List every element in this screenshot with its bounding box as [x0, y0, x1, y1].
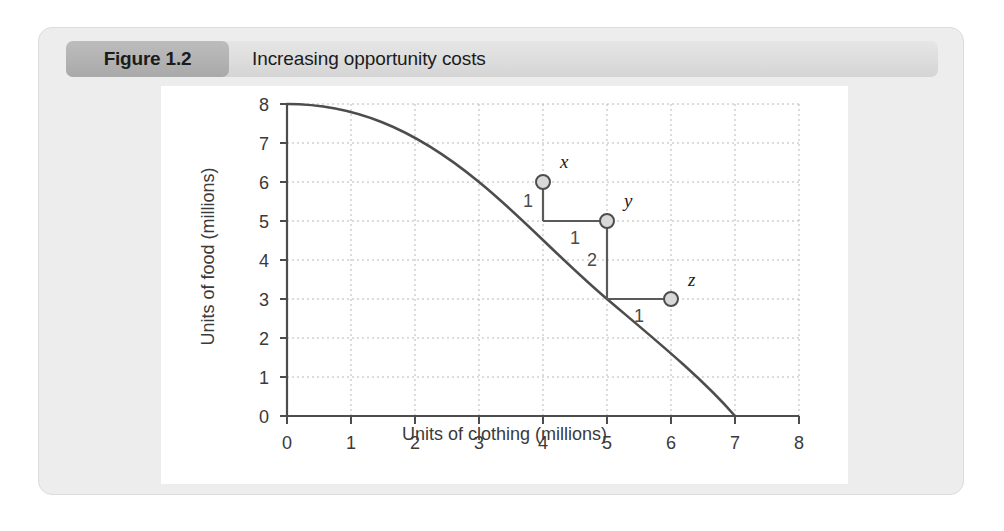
figure-screenshot: Figure 1.2 Increasing opportunity costs [0, 0, 1004, 531]
y-tick-7: 7 [259, 134, 269, 154]
plot-panel: 8 7 6 5 4 3 2 1 0 0 1 2 3 4 5 [161, 86, 848, 484]
axis-ticks [280, 104, 799, 424]
y-tick-2: 2 [259, 329, 269, 349]
y-tick-1: 1 [259, 368, 269, 388]
figure-caption: Increasing opportunity costs [252, 41, 486, 77]
data-point-x[interactable] [536, 175, 550, 189]
figure-number-label: Figure 1.2 [66, 41, 229, 77]
y-tick-8: 8 [259, 95, 269, 115]
point-label-z: z [687, 269, 696, 290]
grid-lines [287, 104, 799, 416]
y-tick-5: 5 [259, 212, 269, 232]
y-tick-labels: 8 7 6 5 4 3 2 1 0 [259, 95, 269, 427]
figure-header: Figure 1.2 Increasing opportunity costs [66, 41, 938, 77]
y-tick-3: 3 [259, 290, 269, 310]
step-label-xy-horizontal: 1 [570, 228, 580, 248]
figure-card: Figure 1.2 Increasing opportunity costs [38, 27, 964, 495]
step-label-xy-vertical: 1 [523, 191, 533, 211]
step-label-yz-horizontal: 1 [634, 306, 644, 326]
x-axis-title: Units of clothing (millions) [161, 424, 848, 445]
y-tick-4: 4 [259, 251, 269, 271]
point-label-x: x [559, 151, 569, 172]
y-axis-title: Units of food (millions) [198, 132, 219, 382]
step-label-yz-vertical: 2 [587, 250, 597, 270]
step-bracket-xy [543, 182, 607, 221]
data-point-y[interactable] [600, 214, 614, 228]
data-point-z[interactable] [664, 292, 678, 306]
y-tick-6: 6 [259, 173, 269, 193]
point-label-y: y [622, 190, 633, 211]
